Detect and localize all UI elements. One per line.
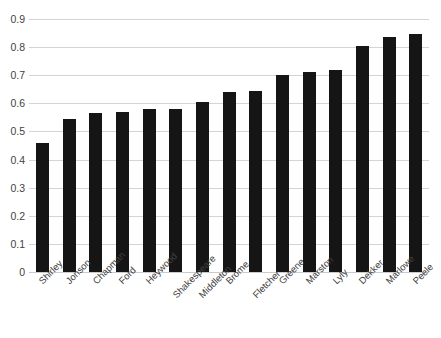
gridline-0 bbox=[29, 272, 429, 273]
bar bbox=[223, 92, 236, 272]
y-tick-label: 0 bbox=[19, 267, 25, 278]
bar bbox=[89, 113, 102, 272]
y-tick-label: 0.2 bbox=[10, 211, 25, 222]
bar bbox=[36, 143, 49, 272]
y-tick-label: 0.7 bbox=[10, 70, 25, 81]
x-tick-label: Fletcher bbox=[251, 269, 282, 300]
bar bbox=[383, 37, 396, 272]
y-tick-label: 0.6 bbox=[10, 98, 25, 109]
bars-container bbox=[29, 19, 429, 272]
y-tick-label: 0.9 bbox=[10, 14, 25, 25]
bar bbox=[276, 75, 289, 272]
bar bbox=[116, 112, 129, 272]
bar bbox=[356, 46, 369, 272]
y-tick-label: 0.4 bbox=[10, 155, 25, 166]
bar bbox=[303, 72, 316, 272]
bar bbox=[196, 102, 209, 272]
bar bbox=[249, 91, 262, 272]
bar bbox=[329, 70, 342, 272]
y-tick-label: 0.3 bbox=[10, 183, 25, 194]
y-tick-label: 0.1 bbox=[10, 239, 25, 250]
bar bbox=[63, 119, 76, 272]
bar bbox=[143, 109, 156, 272]
bar bbox=[169, 109, 182, 272]
y-tick-label: 0.5 bbox=[10, 126, 25, 137]
bar-chart: 0.90.80.70.60.50.40.30.20.10 ShirleyJons… bbox=[0, 0, 441, 338]
y-axis-tick-labels: 0.90.80.70.60.50.40.30.20.10 bbox=[0, 0, 29, 338]
y-tick-label: 0.8 bbox=[10, 42, 25, 53]
bar bbox=[409, 34, 422, 272]
